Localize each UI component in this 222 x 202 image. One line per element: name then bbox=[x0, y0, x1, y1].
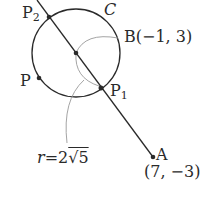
label-p2-main: P bbox=[22, 3, 33, 22]
label-p: P bbox=[20, 73, 31, 89]
leader-b bbox=[76, 37, 118, 53]
label-radius-sqrt: √5 bbox=[68, 148, 88, 167]
label-radius: r=2√5 bbox=[37, 150, 89, 166]
diagram-canvas: P2 C B(−1, 3) P P1 r=2√5 A (7, −3) bbox=[0, 0, 222, 202]
label-p1-main: P bbox=[110, 81, 121, 100]
label-circle-c: C bbox=[104, 2, 116, 18]
point-p2 bbox=[47, 15, 52, 20]
label-p2-sub: 2 bbox=[33, 11, 40, 24]
line-ab bbox=[37, 0, 153, 157]
label-p2: P2 bbox=[22, 5, 40, 23]
point-b bbox=[74, 51, 79, 56]
point-p1 bbox=[99, 86, 104, 91]
leader-r bbox=[66, 80, 84, 143]
label-p1: P1 bbox=[110, 83, 128, 101]
point-a bbox=[151, 155, 156, 160]
label-a: A bbox=[156, 147, 168, 163]
point-p bbox=[37, 76, 42, 81]
label-b: B(−1, 3) bbox=[124, 29, 192, 45]
label-radius-eq: =2 bbox=[45, 148, 69, 167]
label-radius-var: r bbox=[37, 148, 45, 167]
label-p1-sub: 1 bbox=[121, 89, 128, 102]
label-a-coords: (7, −3) bbox=[144, 164, 200, 180]
